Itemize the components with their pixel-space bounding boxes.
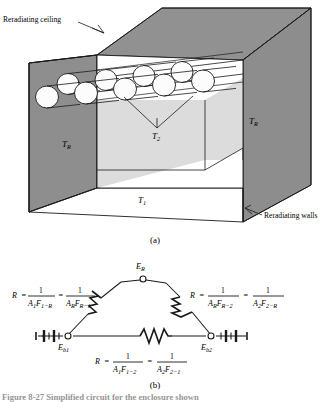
- resistor-right: [172, 297, 192, 317]
- formula-right-denominator-2: A2F2−R: [252, 299, 277, 309]
- panel-b-circuit-diagram: ER Eb1 Eb2 R = 1 A1F1−R = 1 ARFR−1 R: [0, 252, 325, 392]
- ceiling-callout-leader: [78, 22, 104, 33]
- formula-left-denominator-2: ARFR−1: [65, 299, 91, 309]
- resistor-bottom: [140, 329, 172, 343]
- node-label-eb1: Eb1: [57, 343, 69, 353]
- svg-text:=: =: [147, 357, 152, 366]
- formula-bottom-denominator-2: A2F2−1: [156, 365, 180, 375]
- formula-right-numerator-1: 1: [221, 286, 225, 295]
- node-label-eb2: Eb2: [200, 343, 212, 353]
- node-eb2: [208, 333, 214, 339]
- node-label-er: ER: [135, 262, 145, 272]
- formula-bottom-denominator-1: A1F1−2: [112, 365, 136, 375]
- svg-text:=: =: [104, 357, 109, 366]
- panel-b-label: (b): [150, 380, 161, 390]
- node-eb1: [65, 333, 71, 339]
- figure-caption: Figure 8-27 Simplified circuit for the e…: [0, 392, 325, 402]
- formula-left-denominator-1: A1F1−R: [27, 299, 52, 309]
- svg-text:=: =: [199, 291, 204, 300]
- panel-a-label: (a): [150, 235, 160, 245]
- formula-bottom-numerator-1: 1: [126, 352, 130, 361]
- svg-text:R: R: [189, 291, 195, 300]
- svg-text:R: R: [11, 291, 17, 300]
- formula-left: R = 1 A1F1−R = 1 ARFR−1: [11, 286, 95, 309]
- formula-right-denominator-1: ARFR−2: [207, 299, 233, 309]
- svg-text:=: =: [58, 291, 63, 300]
- formula-right-numerator-2: 1: [266, 286, 270, 295]
- formula-left-numerator-1: 1: [39, 286, 43, 295]
- node-er: [140, 276, 146, 282]
- svg-text:=: =: [243, 291, 248, 300]
- formula-left-numerator-2: 1: [78, 286, 82, 295]
- panel-a-enclosure-diagram: Reradiating ceiling Reradiating walls TR…: [0, 0, 325, 248]
- formula-right: R = 1 ARFR−2 = 1 A2F2−R: [189, 286, 284, 309]
- svg-text:=: =: [21, 291, 26, 300]
- reradiating-walls-label: Reradiating walls: [264, 211, 317, 220]
- reradiating-ceiling-label: Reradiating ceiling: [3, 15, 61, 24]
- formula-bottom-numerator-2: 1: [170, 352, 174, 361]
- formula-bottom: R = 1 A1F1−2 = 1 A2F2−1: [94, 352, 187, 375]
- svg-text:R: R: [94, 357, 100, 366]
